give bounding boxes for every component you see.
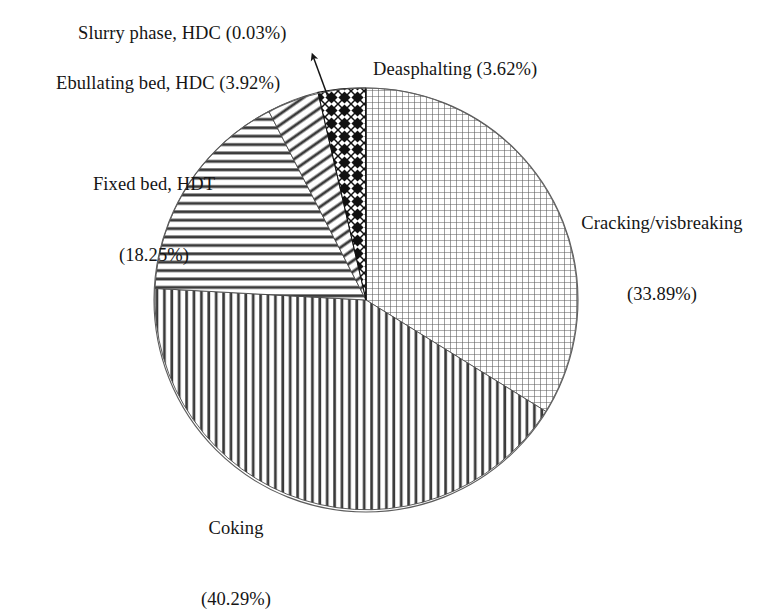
slice-label-deasphalting: Deasphalting (3.62%) — [373, 58, 537, 82]
slice-label-ebullating-bed-hdc: Ebullating bed, HDC (3.92%) — [56, 72, 280, 96]
slice-label-fixed-bed-hdt: Fixed bed, HDT (18.25%) — [74, 126, 234, 315]
slice-label-coking-line1: Coking — [178, 517, 294, 541]
slice-label-cracking-visbreaking: Cracking/visbreaking (33.89%) — [556, 165, 768, 354]
slice-label-cracking-visbreaking-line1: Cracking/visbreaking — [556, 212, 768, 236]
slice-label-coking: Coking (40.29%) — [178, 470, 294, 613]
slice-label-slurry-phase-hdc: Slurry phase, HDC (0.03%) — [78, 22, 287, 46]
slice-label-coking-line2: (40.29%) — [178, 588, 294, 612]
slurry-callout-arrow — [314, 58, 329, 98]
slice-label-fixed-bed-hdt-line2: (18.25%) — [74, 244, 234, 268]
slice-label-fixed-bed-hdt-line1: Fixed bed, HDT — [74, 173, 234, 197]
slice-label-cracking-visbreaking-line2: (33.89%) — [556, 283, 768, 307]
